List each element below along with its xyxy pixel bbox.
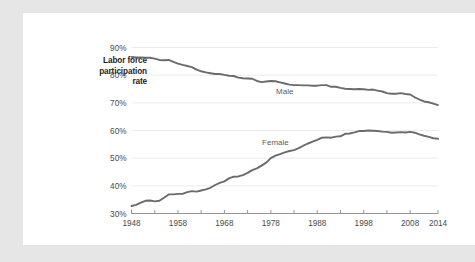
line-chart-svg: 90%80%70%60%50%40%30%1948195819681978198… <box>0 0 475 262</box>
series-annotation: Female <box>262 138 289 147</box>
x-tick-label: 2008 <box>401 219 420 228</box>
y-tick-label: 70% <box>110 99 126 108</box>
y-tick-label: 30% <box>110 210 126 219</box>
y-tick-label: 40% <box>110 182 126 191</box>
x-tick-label: 1998 <box>355 219 374 228</box>
x-tick-label: 1988 <box>308 219 327 228</box>
x-tick-label: 1978 <box>262 219 281 228</box>
x-tick-label: 1948 <box>122 219 141 228</box>
x-tick-label: 1958 <box>169 219 188 228</box>
page-root: Labor force participation rate 90%80%70%… <box>0 0 475 262</box>
y-tick-label: 90% <box>110 44 126 53</box>
x-tick-label: 1968 <box>215 219 234 228</box>
y-tick-label: 60% <box>110 127 126 136</box>
series-line-male <box>132 57 439 105</box>
series-annotation: Male <box>276 87 294 96</box>
x-tick-label: 2014 <box>429 219 448 228</box>
y-tick-label: 50% <box>110 154 126 163</box>
y-tick-label: 80% <box>110 71 126 80</box>
chart-plot-area: 90%80%70%60%50%40%30%1948195819681978198… <box>0 0 475 262</box>
